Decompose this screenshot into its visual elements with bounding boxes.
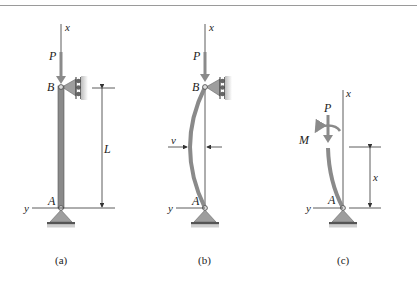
length-label: L xyxy=(103,142,111,156)
ground-icon xyxy=(47,222,75,225)
deflection-label: v xyxy=(171,134,176,146)
moment-label: M xyxy=(298,133,310,147)
x-axis-label: x xyxy=(345,87,351,99)
column-buckling-figure: x P B A y L (a) x xyxy=(0,0,417,287)
x-axis-label: x xyxy=(208,21,214,33)
column-member xyxy=(58,86,64,208)
load-label: P xyxy=(48,49,57,63)
point-A-label: A xyxy=(191,194,200,208)
caption-c: (c) xyxy=(337,254,350,267)
pin-support-icon xyxy=(332,210,354,222)
panel-a: x P B A y L (a) xyxy=(23,21,115,267)
y-axis-label: y xyxy=(23,202,29,214)
point-A-label: A xyxy=(327,193,336,207)
ground-icon xyxy=(191,222,219,225)
panel-c: x P M A y x (c) xyxy=(298,87,381,267)
point-B-label: B xyxy=(47,80,55,94)
ground-icon xyxy=(329,222,357,225)
caption-b: (b) xyxy=(198,254,211,267)
caption-a: (a) xyxy=(55,254,68,267)
point-A-label: A xyxy=(47,194,56,208)
pin-support-icon xyxy=(50,210,72,222)
load-label: P xyxy=(323,101,332,115)
pin-B-icon xyxy=(203,85,208,90)
y-axis-label: y xyxy=(305,202,311,214)
pin-B-icon xyxy=(59,85,64,90)
x-axis-label: x xyxy=(64,21,70,33)
load-arrow-icon xyxy=(323,135,333,143)
roller-support-icon xyxy=(206,79,220,96)
load-label: P xyxy=(192,49,201,63)
buckled-column-member xyxy=(190,87,205,208)
y-axis-label: y xyxy=(167,202,173,214)
panel-b: x P B A v y (b) xyxy=(167,21,232,267)
load-arrow-icon xyxy=(56,76,66,84)
load-arrow-icon xyxy=(200,74,210,82)
pin-support-icon xyxy=(194,210,216,222)
point-B-label: B xyxy=(192,80,200,94)
section-height-label: x xyxy=(372,171,378,183)
